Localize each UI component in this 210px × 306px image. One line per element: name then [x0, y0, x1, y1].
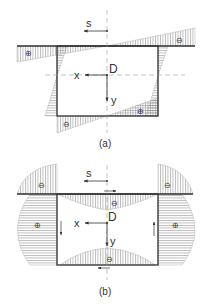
stress-distribution-figure: s x y D ⊕ ⊖ ⊖ ⊕ (a) s — [0, 0, 210, 306]
x-axis-label: x — [74, 69, 80, 81]
sign-top-left-flange: ⊖ — [38, 181, 45, 190]
s-label: s — [86, 167, 92, 179]
sign-bottom-left: ⊖ — [63, 120, 70, 129]
origin-label: D — [109, 62, 118, 76]
s-label: s — [86, 17, 92, 29]
y-axis-label: y — [111, 94, 117, 106]
sign-top-inner: ⊖ — [111, 199, 118, 208]
origin-label: D — [108, 210, 117, 224]
sign-right-web: ⊕ — [172, 221, 179, 230]
stress-area-top-left-flange — [17, 164, 57, 194]
caption-a: (a) — [99, 138, 111, 149]
sign-left-web: ⊕ — [34, 221, 41, 230]
diagram-a: s x y D ⊕ ⊖ ⊖ ⊕ (a) — [17, 10, 195, 149]
diagram-b: s x y D ⊖ ⊖ ⊕ ⊕ ⊖ ⊖ (b) — [17, 164, 195, 297]
stress-area-top-inner — [57, 194, 158, 210]
caption-b: (b) — [99, 286, 111, 297]
y-axis-label: y — [110, 235, 116, 247]
sign-bottom-inner: ⊖ — [106, 255, 113, 264]
sign-top-right: ⊖ — [176, 36, 183, 45]
sign-bottom-right: ⊕ — [137, 107, 144, 116]
x-axis-label: x — [74, 217, 80, 229]
sign-top-left: ⊕ — [25, 49, 32, 58]
sign-top-right-flange: ⊖ — [164, 181, 171, 190]
